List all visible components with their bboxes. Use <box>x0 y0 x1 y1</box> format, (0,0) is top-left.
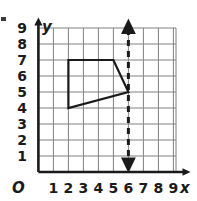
x-tick-label-2: 2 <box>64 180 74 196</box>
x-tick-label-3: 3 <box>79 180 89 196</box>
y-tick-label-2: 2 <box>17 132 27 148</box>
x-tick-label-4: 4 <box>94 180 104 196</box>
x-tick-label-5: 5 <box>109 180 119 196</box>
y-tick-label-1: 1 <box>17 148 27 164</box>
x-tick-label-1: 1 <box>49 180 59 196</box>
coordinate-grid-figure: y x O 1 2 3 4 5 6 7 8 9 1 2 3 4 5 6 7 8 … <box>0 0 197 201</box>
reflection-arrowhead-bottom <box>121 158 136 174</box>
y-tick-label-8: 8 <box>17 36 27 52</box>
y-tick-label-5: 5 <box>17 84 27 100</box>
y-tick-label-3: 3 <box>17 116 27 132</box>
y-tick-label-7: 7 <box>17 52 27 68</box>
x-tick-label-8: 8 <box>154 180 164 196</box>
y-tick-labels: 1 2 3 4 5 6 7 8 9 <box>17 20 27 164</box>
coordinate-plane-svg: y x O 1 2 3 4 5 6 7 8 9 1 2 3 4 5 6 7 8 … <box>0 0 197 201</box>
y-tick-label-6: 6 <box>17 68 27 84</box>
y-tick-label-9: 9 <box>17 20 27 36</box>
x-tick-labels: 1 2 3 4 5 6 7 8 9 <box>49 180 179 196</box>
x-tick-label-9: 9 <box>169 180 179 196</box>
edge-artifact-mark <box>1 17 6 21</box>
x-axis-label: x <box>179 179 191 197</box>
y-axis-label: y <box>42 18 53 36</box>
y-tick-label-4: 4 <box>17 100 27 116</box>
origin-label: O <box>12 179 25 197</box>
reflection-arrowhead-top <box>121 19 136 35</box>
x-tick-label-7: 7 <box>139 180 149 196</box>
x-tick-label-6: 6 <box>124 180 134 196</box>
grid-lines <box>38 28 176 172</box>
x-axis-arrowhead <box>183 168 191 176</box>
